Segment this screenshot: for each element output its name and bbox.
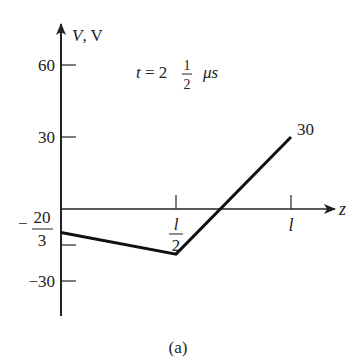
x-axis-label: z xyxy=(338,199,346,219)
x-tick-label: l xyxy=(288,215,293,235)
annotation-unit: μs xyxy=(202,63,219,82)
y-tick: 60 xyxy=(38,56,76,75)
voltage-distribution-chart: V, V z 6030−203−30 l2l 30 t = 2 1 2 μs (… xyxy=(0,0,358,364)
y-tick-label-num: 20 xyxy=(34,208,51,227)
annotation-frac-den: 2 xyxy=(184,77,191,92)
y-tick-label-minus: − xyxy=(18,214,28,233)
x-tick-label-num: l xyxy=(174,215,179,234)
y-tick-label: 60 xyxy=(38,56,55,75)
annotation-frac-num: 1 xyxy=(184,58,191,73)
time-annotation: t = 2 1 2 μs xyxy=(136,58,219,92)
y-tick-label: −30 xyxy=(28,272,55,291)
y-ticks: 6030−203−30 xyxy=(18,56,76,291)
y-tick-label-den: 3 xyxy=(38,231,47,250)
y-tick-label: 30 xyxy=(38,128,55,147)
y-tick: −203 xyxy=(18,208,76,250)
y-tick: −30 xyxy=(28,272,76,291)
y-tick: 30 xyxy=(38,128,76,147)
annotation-prefix: t = 2 xyxy=(136,63,167,82)
x-tick: l xyxy=(288,195,293,235)
figure-caption: (a) xyxy=(169,338,188,357)
y-axis-label: V, V xyxy=(72,26,104,45)
series-end-label: 30 xyxy=(297,120,314,139)
series-group: 30 xyxy=(61,120,314,254)
x-ticks: l2l xyxy=(169,195,294,255)
x-tick: l2 xyxy=(169,195,183,255)
